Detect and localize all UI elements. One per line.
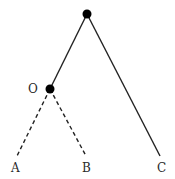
tree-diagram: O A B C [0,0,175,179]
label-a: A [10,161,20,175]
edge-root-to-o [50,14,87,89]
label-o: O [28,82,38,96]
root-node [83,10,92,19]
label-b: B [82,161,91,175]
node-o [46,85,55,94]
edge-o-to-a [17,89,50,156]
label-c: C [157,161,166,175]
edge-o-to-b [50,89,86,156]
edge-root-to-c [87,14,160,156]
